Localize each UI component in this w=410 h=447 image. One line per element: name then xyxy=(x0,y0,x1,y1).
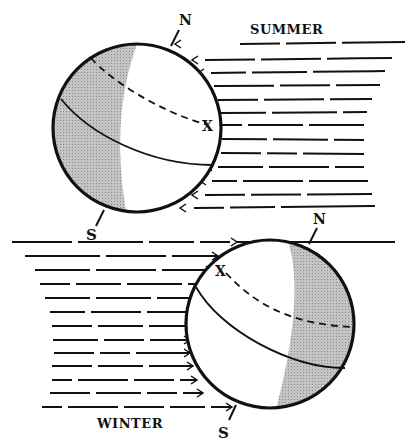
winter-south-label: S xyxy=(218,424,229,442)
winter-marker-x: X xyxy=(215,263,226,279)
summer-title: SUMMER xyxy=(250,22,323,37)
summer-marker-x: X xyxy=(202,118,213,134)
summer-sun-rays xyxy=(194,42,405,208)
seasons-diagram: N S X SUMMER xyxy=(0,0,410,447)
summer-south-axis xyxy=(96,210,104,226)
winter-title: WINTER xyxy=(96,416,163,431)
winter-north-label: N xyxy=(313,211,326,227)
summer-group: N S X SUMMER xyxy=(40,12,405,244)
summer-north-label: N xyxy=(179,12,192,28)
winter-group: N S X WINTER xyxy=(12,211,395,442)
